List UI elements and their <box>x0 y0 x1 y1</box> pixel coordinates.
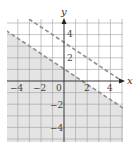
y-tick: −4 <box>50 123 64 133</box>
shaded-region <box>6 31 123 143</box>
x-axis-label: x <box>127 75 133 86</box>
y-tick: 4 <box>67 29 73 39</box>
y-tick: −2 <box>50 100 63 110</box>
y-axis-arrow-icon <box>62 18 67 24</box>
x-tick: −2 <box>33 83 46 93</box>
x-tick: 2 <box>84 83 90 93</box>
y-axis-label: y <box>60 6 67 17</box>
y-tick: 2 <box>67 53 73 63</box>
x-tick: 4 <box>107 83 113 93</box>
inequality-graph: x y −4 −2 0 2 4 4 2 −2 −4 <box>0 0 139 146</box>
x-tick: −4 <box>10 83 24 93</box>
x-tick: 0 <box>56 83 62 93</box>
